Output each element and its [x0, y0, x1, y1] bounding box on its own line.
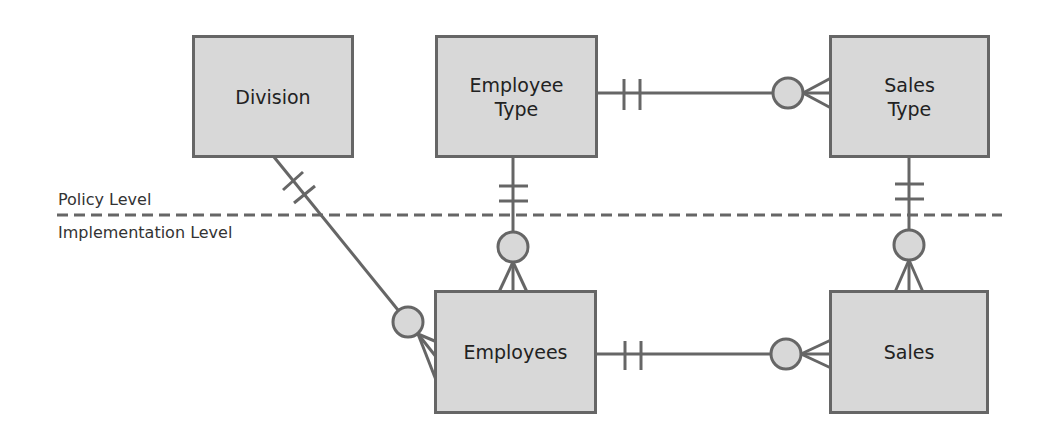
- crows-foot-icon: [801, 340, 831, 368]
- one-tick-icon: [294, 186, 315, 203]
- zero-circle-icon: [393, 307, 423, 337]
- entity-sales-type-label: Sales Type: [884, 73, 935, 121]
- zero-circle-icon: [894, 230, 924, 260]
- entity-division[interactable]: Division: [192, 35, 354, 158]
- relationship-employees-sales: [596, 339, 831, 370]
- crows-foot-icon: [895, 260, 923, 292]
- entity-sales[interactable]: Sales: [829, 290, 989, 414]
- er-diagram: Policy Level Implementation Level Divisi…: [0, 0, 1054, 436]
- entity-division-label: Division: [235, 85, 310, 109]
- zero-circle-icon: [771, 339, 801, 369]
- zero-circle-icon: [773, 78, 803, 108]
- policy-level-label: Policy Level: [58, 190, 151, 209]
- entity-employee-type[interactable]: Employee Type: [435, 35, 598, 158]
- crows-foot-icon: [499, 262, 527, 292]
- relationship-employee-type-employees: [498, 157, 528, 292]
- relationship-division-employees: [274, 157, 437, 380]
- relationship-employee-type-sales-type: [597, 78, 831, 110]
- relationship-sales-type-sales: [894, 157, 924, 292]
- entity-employees-label: Employees: [464, 340, 568, 364]
- entity-employee-type-label: Employee Type: [469, 73, 563, 121]
- crows-foot-icon: [803, 78, 831, 108]
- entity-employees[interactable]: Employees: [434, 290, 597, 414]
- entity-sales-type[interactable]: Sales Type: [829, 35, 990, 158]
- zero-circle-icon: [498, 232, 528, 262]
- implementation-level-label: Implementation Level: [58, 223, 232, 242]
- entity-sales-label: Sales: [884, 340, 935, 364]
